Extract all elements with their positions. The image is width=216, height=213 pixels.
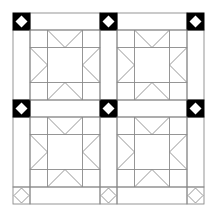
sashing-strip [100,117,117,187]
star-point [65,83,83,101]
sashing-strip [117,100,187,117]
sashing-strip [100,30,117,100]
star-block [117,117,187,187]
star-point [48,83,66,101]
star-point [170,65,188,83]
star-point [48,170,66,188]
star-point [117,48,135,66]
star-point [152,30,170,48]
diamond-shape [14,188,29,203]
sashing-strip [117,187,187,204]
star-point [117,152,135,170]
quilt-diagram [0,0,216,213]
diamond-shape [188,188,203,203]
sashing-strip [30,100,100,117]
star-point [65,117,83,135]
sashing-strip [187,30,204,100]
star-point [30,152,48,170]
star-point [135,170,153,188]
star-block [30,117,100,187]
sashing-strip [13,117,30,187]
sashing-strip [30,13,100,30]
diamond-shape [101,188,116,203]
star-point [117,65,135,83]
star-point [117,135,135,153]
star-point [170,135,188,153]
star-point [135,30,153,48]
star-point [170,152,188,170]
star-point [48,30,66,48]
star-point [30,48,48,66]
star-point [65,170,83,188]
star-point [65,30,83,48]
star-point [152,83,170,101]
sashing-strip [30,187,100,204]
star-point [83,135,101,153]
star-point [83,48,101,66]
star-point [135,83,153,101]
star-point [170,48,188,66]
sashing-strip [117,13,187,30]
star-point [48,117,66,135]
star-point [135,117,153,135]
star-point [152,170,170,188]
star-point [30,135,48,153]
sashing-strip [187,117,204,187]
star-block [30,30,100,100]
star-point [30,65,48,83]
star-point [83,152,101,170]
star-point [152,117,170,135]
star-block [117,30,187,100]
sashing-strip [13,30,30,100]
star-point [83,65,101,83]
